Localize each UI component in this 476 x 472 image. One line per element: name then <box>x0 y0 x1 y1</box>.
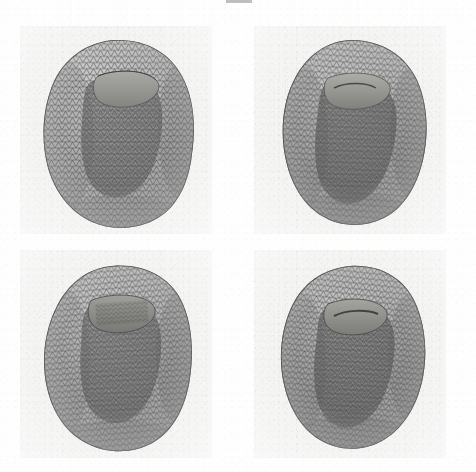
mesh-render-bottom-left <box>20 250 212 458</box>
mesh-render-bottom-right <box>254 250 446 458</box>
mesh-panel-top-left[interactable] <box>20 26 212 234</box>
mesh-panel-bottom-left[interactable] <box>20 250 212 458</box>
mesh-render-top-right <box>254 26 446 234</box>
figure-root: Four-view triangulated surface mesh rend… <box>0 0 476 472</box>
panel-grid <box>0 0 476 472</box>
mesh-render-top-left <box>20 26 212 234</box>
mesh-panel-top-right[interactable] <box>254 26 446 234</box>
mesh-panel-bottom-right[interactable] <box>254 250 446 458</box>
